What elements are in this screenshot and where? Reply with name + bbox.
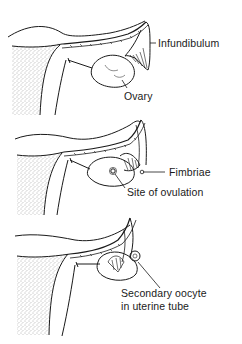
label-ovary: Ovary <box>124 90 153 102</box>
label-in-uterine-tube: in uterine tube <box>121 300 189 312</box>
label-fimbriae: Fimbriae <box>169 166 211 178</box>
panel-3-drawing <box>15 218 160 336</box>
label-site-of-ovulation: Site of ovulation <box>127 186 203 198</box>
label-secondary-oocyte: Secondary oocyte <box>121 287 207 299</box>
label-infundibulum: Infundibulum <box>158 37 219 49</box>
panel-2-drawing <box>15 120 165 215</box>
ovulation-diagram: Infundibulum Ovary Fimbriae Site of ovul… <box>0 0 242 344</box>
